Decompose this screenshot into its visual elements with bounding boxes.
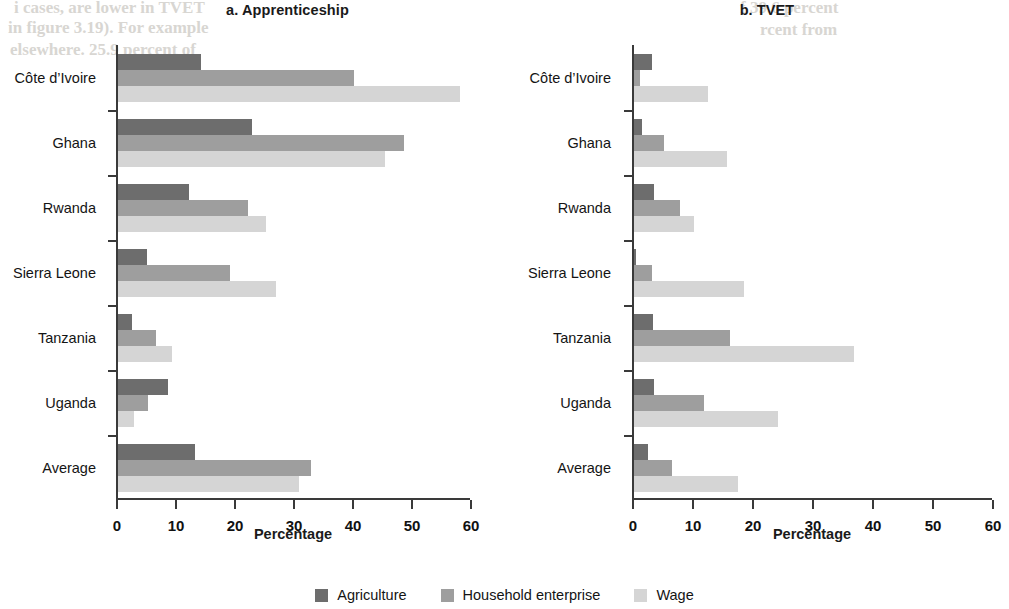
x-axis-tick: [692, 500, 694, 509]
bar-group: [118, 314, 470, 362]
figure-root: a. Apprenticeship 0102030405060 Percenta…: [0, 0, 1009, 609]
category-label: Rwanda: [558, 200, 611, 216]
bar-household-enterprise: [634, 265, 652, 281]
y-axis-tick: [624, 175, 632, 177]
bar-agriculture: [634, 379, 654, 395]
panel-a-category-labels: Côte d’IvoireGhanaRwandaSierra LeoneTanz…: [0, 45, 108, 500]
bar-agriculture: [118, 54, 201, 70]
bar-agriculture: [634, 54, 652, 70]
y-axis-tick: [108, 370, 116, 372]
bar-household-enterprise: [118, 265, 230, 281]
category-label: Uganda: [560, 395, 611, 411]
category-label: Average: [557, 460, 611, 476]
bar-wage: [118, 346, 172, 362]
bar-group: [634, 54, 992, 102]
bar-wage: [118, 151, 385, 167]
bar-household-enterprise: [634, 395, 704, 411]
bar-household-enterprise: [118, 330, 156, 346]
category-label: Tanzania: [38, 330, 96, 346]
category-label: Tanzania: [553, 330, 611, 346]
bar-wage: [634, 476, 738, 492]
legend-label: Household enterprise: [463, 587, 601, 603]
bar-group: [634, 184, 992, 232]
legend-swatch-icon: [441, 589, 454, 602]
bar-group: [634, 119, 992, 167]
bar-wage: [634, 411, 778, 427]
category-label: Ghana: [52, 135, 96, 151]
y-axis-tick: [624, 240, 632, 242]
bar-agriculture: [634, 119, 642, 135]
legend-item-household: Household enterprise: [441, 587, 601, 603]
bar-wage: [118, 86, 460, 102]
bar-agriculture: [118, 249, 147, 265]
x-axis-tick: [116, 500, 118, 509]
bar-wage: [634, 86, 708, 102]
y-axis-tick: [108, 175, 116, 177]
x-axis-tick: [932, 500, 934, 509]
panel-b-category-labels: Côte d’IvoireGhanaRwandaSierra LeoneTanz…: [505, 45, 623, 500]
y-axis-tick: [108, 110, 116, 112]
bar-household-enterprise: [118, 70, 354, 86]
bar-agriculture: [118, 444, 195, 460]
y-axis-tick: [624, 110, 632, 112]
category-label: Rwanda: [43, 200, 96, 216]
bar-household-enterprise: [634, 70, 640, 86]
category-label: Uganda: [45, 395, 96, 411]
bar-wage: [118, 476, 299, 492]
bar-household-enterprise: [118, 460, 311, 476]
bar-household-enterprise: [634, 460, 672, 476]
bar-wage: [118, 281, 276, 297]
x-axis-tick: [752, 500, 754, 509]
y-axis-tick: [108, 435, 116, 437]
x-axis-tick: [175, 500, 177, 509]
bar-agriculture: [634, 444, 648, 460]
legend-swatch-icon: [634, 589, 647, 602]
x-axis-tick: [293, 500, 295, 509]
bar-wage: [118, 216, 266, 232]
panel-a-plot-area: 0102030405060: [116, 45, 470, 500]
x-axis-tick: [352, 500, 354, 509]
bar-group: [634, 444, 992, 492]
panel-b-title: b. TVET: [505, 2, 1009, 18]
panel-a-x-axis-title: Percentage: [116, 526, 470, 542]
category-label: Average: [42, 460, 96, 476]
bar-household-enterprise: [118, 135, 404, 151]
x-axis-tick: [872, 500, 874, 509]
y-axis-tick: [624, 305, 632, 307]
bar-agriculture: [634, 249, 636, 265]
bar-household-enterprise: [634, 200, 680, 216]
category-label: Sierra Leone: [528, 265, 611, 281]
x-axis-tick: [632, 500, 634, 509]
bar-agriculture: [118, 379, 168, 395]
category-label: Ghana: [567, 135, 611, 151]
x-axis-tick: [992, 500, 994, 509]
bar-agriculture: [118, 184, 189, 200]
bar-wage: [634, 281, 744, 297]
chart-legend: AgricultureHousehold enterpriseWage: [0, 587, 1009, 603]
y-axis-tick: [108, 305, 116, 307]
bar-group: [118, 379, 470, 427]
bar-group: [634, 249, 992, 297]
x-axis-tick: [411, 500, 413, 509]
bar-household-enterprise: [634, 135, 664, 151]
bar-household-enterprise: [118, 395, 148, 411]
panel-b-x-axis-title: Percentage: [632, 526, 992, 542]
bar-group: [118, 184, 470, 232]
category-label: Sierra Leone: [13, 265, 96, 281]
y-axis-tick: [624, 435, 632, 437]
legend-item-wage: Wage: [634, 587, 693, 603]
bar-wage: [634, 151, 727, 167]
bar-wage: [634, 216, 694, 232]
y-axis-tick: [624, 370, 632, 372]
category-label: Côte d’Ivoire: [15, 70, 96, 86]
legend-label: Agriculture: [337, 587, 406, 603]
bar-agriculture: [634, 314, 653, 330]
y-axis-tick: [108, 240, 116, 242]
bar-household-enterprise: [118, 200, 248, 216]
x-axis-tick: [234, 500, 236, 509]
panel-b-plot-area: 0102030405060: [632, 45, 992, 500]
x-axis-tick: [812, 500, 814, 509]
bar-agriculture: [118, 119, 252, 135]
bar-group: [634, 379, 992, 427]
bar-agriculture: [118, 314, 132, 330]
